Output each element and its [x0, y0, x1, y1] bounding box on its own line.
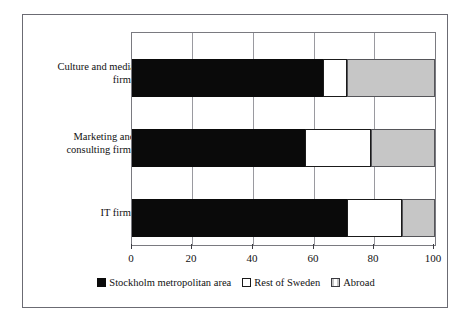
bar-segment-rest-of-sweden[interactable]: [305, 129, 371, 167]
black-square-icon: [97, 278, 106, 287]
tick-label-40: 40: [247, 251, 258, 265]
bar-row-marketing-and-consulting-firms[interactable]: [132, 129, 435, 167]
tick-label-80: 80: [368, 251, 379, 265]
bar-segment-stockholm-metropolitan-area[interactable]: [132, 199, 347, 237]
tick-label-100: 100: [425, 251, 442, 265]
tick-mark-40: [252, 244, 253, 249]
gray-square-icon: [331, 278, 340, 287]
tick-label-60: 60: [308, 251, 319, 265]
legend-item-abroad[interactable]: Abroad: [331, 277, 375, 288]
category-label-marketing-and-consulting-firms: Marketing and consulting firms: [0, 131, 135, 156]
legend-label-abroad: Abroad: [343, 277, 375, 288]
x-axis-tick-marks: [131, 244, 434, 250]
bar-row-it-firms[interactable]: [132, 199, 435, 237]
chart-plot-wrapper: Culture and media firms Marketing and co…: [23, 15, 449, 309]
legend-item-rest-of-sweden[interactable]: Rest of Sweden: [242, 277, 320, 288]
legend-label-stockholm-metropolitan-area: Stockholm metropolitan area: [109, 277, 231, 288]
legend-label-rest-of-sweden: Rest of Sweden: [254, 277, 320, 288]
bar-segment-abroad[interactable]: [371, 129, 435, 167]
bar-segment-rest-of-sweden[interactable]: [323, 59, 347, 97]
category-label-it-firms: IT firms: [0, 207, 135, 220]
tick-mark-0: [131, 244, 132, 249]
category-label-culture-and-media-firms: Culture and media firms: [0, 61, 135, 86]
bar-segment-abroad[interactable]: [347, 59, 435, 97]
category-label-line-1: Marketing and: [0, 131, 135, 144]
bar-segment-stockholm-metropolitan-area[interactable]: [132, 59, 323, 97]
bar-segment-stockholm-metropolitan-area[interactable]: [132, 129, 305, 167]
plot-area: [131, 32, 436, 246]
white-square-icon: [242, 278, 251, 287]
tick-mark-20: [191, 244, 192, 249]
tick-mark-100: [433, 244, 434, 249]
legend-item-stockholm-metropolitan-area[interactable]: Stockholm metropolitan area: [97, 277, 231, 288]
category-label-line-1: Culture and media: [0, 61, 135, 74]
bar-segment-abroad[interactable]: [402, 199, 435, 237]
chart-figure-frame: Culture and media firms Marketing and co…: [22, 14, 448, 308]
x-axis-tick-labels: 0 20 40 60 80 100: [131, 251, 434, 267]
tick-label-20: 20: [186, 251, 197, 265]
category-label-line-2: consulting firms: [0, 144, 135, 157]
chart-legend: Stockholm metropolitan area Rest of Swed…: [23, 277, 449, 288]
category-label-line-2: firms: [0, 74, 135, 87]
tick-mark-60: [313, 244, 314, 249]
category-label-line-1: IT firms: [0, 207, 135, 220]
tick-mark-80: [373, 244, 374, 249]
bar-row-culture-and-media-firms[interactable]: [132, 59, 435, 97]
tick-label-0: 0: [128, 251, 134, 265]
bar-segment-rest-of-sweden[interactable]: [347, 199, 402, 237]
